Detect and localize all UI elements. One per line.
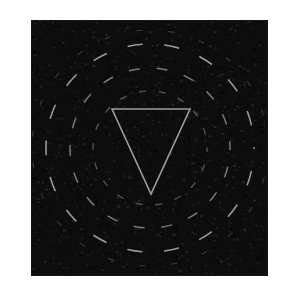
image-canvas (0, 0, 292, 300)
figure-svg (0, 0, 292, 300)
